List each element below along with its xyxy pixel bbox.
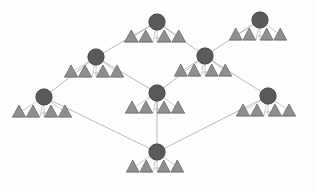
lattice-edge <box>157 96 268 152</box>
leaf-triangle <box>158 160 171 172</box>
leaf-triangle <box>126 101 139 113</box>
graph-node[interactable] <box>197 48 214 65</box>
diagram-canvas <box>0 0 316 191</box>
leaf-triangle <box>45 105 58 117</box>
graph-node[interactable] <box>36 89 53 106</box>
leaf-triangle <box>125 30 139 42</box>
leaf-triangle <box>158 101 171 113</box>
leaf-triangle <box>158 30 172 42</box>
leaf-triangle <box>65 65 78 77</box>
leaf-triangle <box>59 105 72 117</box>
graph-node[interactable] <box>252 12 269 29</box>
graph-node[interactable] <box>149 14 166 31</box>
graph-node[interactable] <box>88 49 105 66</box>
leaf-triangle <box>13 105 26 117</box>
leaf-triangle <box>237 104 250 116</box>
graph-node[interactable] <box>149 85 166 102</box>
leaf-triangle <box>206 64 219 76</box>
leaf-triangle <box>269 104 282 116</box>
leaf-triangle <box>172 30 186 42</box>
lattice-edge <box>44 97 157 152</box>
leaf-triangle <box>171 160 184 172</box>
graph-node[interactable] <box>260 88 277 105</box>
leaf-triangle <box>274 28 287 40</box>
leaf-triangle <box>172 101 185 113</box>
graph-node[interactable] <box>149 144 166 161</box>
leaf-triangle <box>97 65 110 77</box>
leaf-triangle <box>127 160 140 172</box>
leaf-triangle <box>283 104 296 116</box>
leaf-triangle <box>175 64 188 76</box>
leaf-triangle <box>261 28 274 40</box>
leaf-triangle <box>230 28 243 40</box>
